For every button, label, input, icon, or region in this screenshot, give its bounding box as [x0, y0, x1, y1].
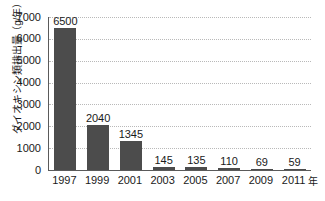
x-axis-tick-label: 2005 — [179, 174, 212, 187]
bar-value-label: 1345 — [119, 128, 143, 140]
bar: 145 — [153, 167, 175, 170]
bar-value-label: 6500 — [53, 15, 77, 27]
y-axis-tick-label: 6000 — [17, 33, 41, 44]
bar: 1345 — [120, 141, 142, 170]
bar-slot: 145 — [147, 17, 180, 170]
y-axis-tick-labels: 70006000500040003000200010000 — [0, 12, 44, 170]
x-axis-tick-label: 2011 — [277, 174, 310, 187]
bar-slot: 59 — [278, 17, 311, 170]
bar-value-label: 69 — [256, 156, 268, 168]
bar-value-label: 2040 — [86, 112, 110, 124]
x-axis-tick-label: 1997 — [48, 174, 81, 187]
x-axis-tick-label: 2009 — [245, 174, 278, 187]
bar: 2040 — [87, 125, 109, 170]
bar-value-label: 59 — [289, 156, 301, 168]
bar: 6500 — [54, 28, 76, 170]
y-axis-tick-label: 5000 — [17, 55, 41, 66]
y-axis-tick-label: 3000 — [17, 99, 41, 110]
y-axis-tick-label: 0 — [35, 165, 41, 176]
bar-value-label: 110 — [220, 155, 238, 167]
x-axis-tick-label: 2007 — [212, 174, 245, 187]
bar-value-label: 145 — [154, 154, 172, 166]
bar-slot: 135 — [180, 17, 213, 170]
bar: 59 — [284, 169, 306, 171]
bar: 69 — [251, 169, 273, 171]
bar-series: 6500204013451451351106959 — [49, 17, 311, 170]
y-axis-tick-label: 7000 — [17, 12, 41, 23]
x-axis-tick-labels: 19971999200120032005200720092011 — [48, 174, 310, 190]
bar-slot: 110 — [213, 17, 246, 170]
x-axis-tick-label: 1999 — [81, 174, 114, 187]
x-axis-tick-label: 2003 — [146, 174, 179, 187]
plot-area: 6500204013451451351106959 — [48, 17, 311, 171]
y-axis-tick-label: 1000 — [17, 143, 41, 154]
bar-chart: ダイオキシン類排出量（g/年） 700060005000400030002000… — [0, 0, 325, 201]
x-axis-tick-label: 2001 — [114, 174, 147, 187]
bar: 110 — [218, 168, 240, 170]
y-axis-tick-label: 4000 — [17, 77, 41, 88]
bar-slot: 6500 — [49, 17, 82, 170]
bar: 135 — [185, 167, 207, 170]
x-axis-unit-label: 年 — [308, 175, 318, 188]
bar-slot: 69 — [246, 17, 279, 170]
bar-slot: 2040 — [82, 17, 115, 170]
bar-slot: 1345 — [115, 17, 148, 170]
y-axis-tick-label: 2000 — [17, 121, 41, 132]
bar-value-label: 135 — [187, 154, 205, 166]
